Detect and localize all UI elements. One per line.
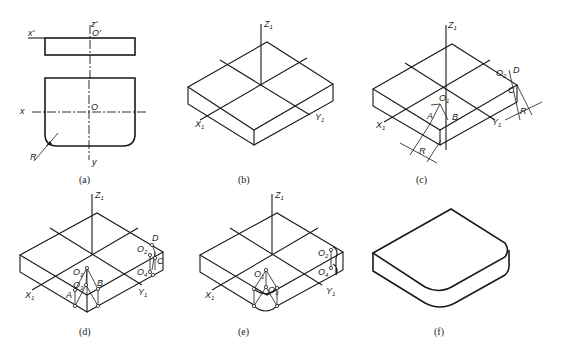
point-a-bottom — [252, 304, 255, 307]
x1-axis — [32, 228, 138, 290]
y1-axis — [230, 228, 322, 285]
label-x1: X1 — [204, 290, 214, 301]
y1-axis — [220, 60, 310, 115]
plate-top-face — [373, 209, 508, 291]
caption-e: (e) — [238, 326, 249, 338]
caption-f: (f) — [434, 326, 444, 338]
label-r2: R — [520, 106, 527, 116]
label-x: x — [19, 106, 25, 116]
label-o4: O4 — [137, 267, 148, 278]
point-o1 — [85, 266, 88, 269]
label-z1: Z1 — [263, 19, 273, 30]
caption-a: (a) — [79, 174, 90, 186]
label-b: B — [97, 278, 103, 288]
point-b-bottom — [275, 304, 278, 307]
label-c: C — [508, 85, 515, 95]
label-x-prime: x' — [27, 28, 35, 38]
point-c-bottom — [151, 273, 154, 276]
label-o: O — [91, 102, 98, 112]
label-d: D — [513, 65, 520, 75]
point-o2 — [329, 248, 332, 251]
label-y: y — [91, 157, 97, 167]
point-d — [150, 243, 153, 246]
y1-axis — [405, 63, 495, 120]
box-right-face — [254, 84, 333, 145]
x1-axis — [200, 58, 307, 120]
isometric-rounded-corner-figure: x' z' O' x O y R (a) Z1 X1 Y1 (b) — [0, 0, 561, 354]
label-x1: X1 — [194, 119, 204, 130]
point-o4 — [148, 270, 151, 273]
label-x1: X1 — [24, 290, 34, 301]
panel-c-construction: O1 A B O2 D C R R Z1 X1 Y1 (c) — [373, 20, 542, 186]
label-z1: Z1 — [274, 190, 284, 201]
point-a — [252, 287, 255, 290]
label-z1: Z1 — [447, 20, 457, 31]
point-o2 — [148, 253, 151, 256]
label-r1: R — [419, 146, 426, 156]
caption-b: (b) — [238, 174, 250, 186]
label-y1: Y1 — [492, 117, 501, 128]
caption-c: (c) — [416, 174, 427, 186]
panel-e-arcs-drawn: O1 O3 O2 O4 Z1 X1 Y1 (e) — [200, 190, 343, 338]
point-o1 — [264, 268, 267, 271]
label-a: A — [426, 111, 433, 121]
label-d: D — [152, 233, 159, 243]
label-o3: O3 — [73, 280, 84, 291]
label-o1: O1 — [439, 93, 449, 104]
panel-f-final-rounded-plate: (f) — [373, 209, 509, 338]
label-o2: O2 — [137, 244, 148, 255]
label-b: B — [452, 112, 458, 122]
label-o-prime: O' — [92, 28, 101, 38]
label-z1: Z1 — [94, 190, 104, 201]
box-left-face — [188, 87, 254, 145]
label-o1: O1 — [73, 267, 83, 278]
plate-side-faces — [373, 250, 509, 307]
point-o4 — [329, 266, 332, 269]
panel-d-construction: O1 O3 A B O2 D C O4 Z1 X1 Y1 (d) — [20, 190, 164, 338]
label-r: R — [30, 152, 37, 162]
x1-axis — [384, 60, 490, 122]
label-y1: Y1 — [315, 112, 324, 123]
y1-axis — [50, 228, 142, 285]
point-a-bottom — [73, 304, 76, 307]
label-o4: O4 — [318, 267, 329, 278]
bottom-arc-front — [254, 306, 277, 311]
o2-perp — [509, 70, 520, 120]
label-o1: O1 — [254, 269, 264, 280]
label-o2: O2 — [496, 68, 507, 79]
point-b-bottom — [96, 304, 99, 307]
box-right-face — [277, 252, 343, 306]
x1-axis — [212, 228, 318, 290]
label-y1: Y1 — [138, 287, 147, 298]
label-o2: O2 — [318, 248, 329, 259]
panel-b-isometric-box: Z1 X1 Y1 (b) — [188, 19, 333, 186]
panel-a-orthographic-views: x' z' O' x O y R (a) — [19, 19, 147, 186]
caption-d: (d) — [79, 326, 91, 338]
right-arcs — [333, 247, 337, 275]
point-o3 — [84, 283, 87, 286]
label-y1: Y1 — [326, 286, 335, 297]
label-a: A — [65, 290, 72, 300]
label-c: C — [157, 256, 164, 266]
